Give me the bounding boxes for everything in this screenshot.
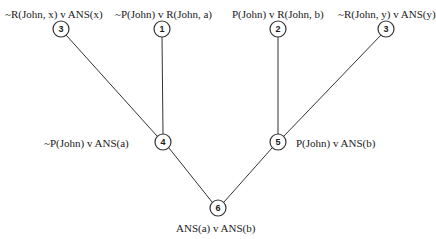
edge-5-to-6 xyxy=(224,148,272,202)
node-number-4: 4 xyxy=(160,137,165,147)
clause-label-6: ANS(a) v ANS(b) xyxy=(176,222,255,234)
edges xyxy=(66,35,381,202)
node-number-6: 6 xyxy=(215,203,220,213)
node-number-1: 1 xyxy=(159,24,164,34)
clause-label-4: ~P(John) v ANS(a) xyxy=(44,137,129,149)
clause-label-3b: ~R(John, y) v ANS(y) xyxy=(338,8,436,20)
node-numbers: 3 1 2 3 4 5 6 xyxy=(58,24,388,213)
node-number-3a: 3 xyxy=(58,24,63,34)
edge-4-to-6 xyxy=(169,148,212,202)
clause-label-2: P(John) v R(John, b) xyxy=(232,8,324,20)
node-number-3b: 3 xyxy=(383,24,388,34)
clause-label-3a: ~R(John, x) v ANS(x) xyxy=(5,8,103,20)
clause-label-1: ~P(John) v R(John, a) xyxy=(115,8,212,20)
node-circles xyxy=(53,21,394,216)
node-number-5: 5 xyxy=(275,137,280,147)
edge-3b-to-5 xyxy=(284,35,381,136)
node-number-2: 2 xyxy=(275,24,280,34)
clause-label-5: P(John) v ANS(b) xyxy=(296,137,375,149)
edge-3a-to-4 xyxy=(66,35,157,136)
edge-1-to-4 xyxy=(162,37,163,134)
